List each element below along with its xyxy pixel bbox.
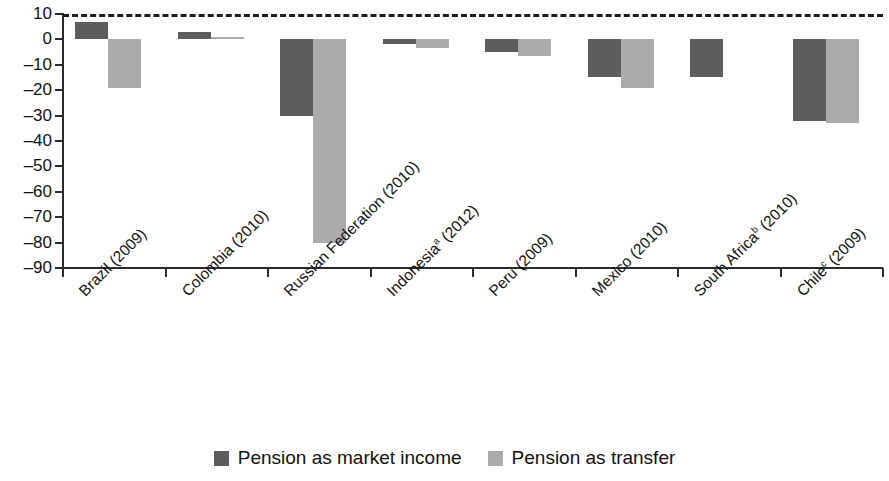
legend-entry: Pension as transfer xyxy=(488,448,676,468)
x-axis-tick xyxy=(165,268,167,277)
x-axis-tick xyxy=(575,268,577,277)
bar xyxy=(621,39,654,87)
legend-swatch-icon xyxy=(488,451,503,466)
bar xyxy=(280,39,313,115)
bar xyxy=(178,32,211,40)
x-axis-tick xyxy=(882,268,884,277)
bar xyxy=(416,39,449,48)
zero-baseline xyxy=(63,14,883,17)
y-axis-tick xyxy=(55,89,63,91)
y-axis-tick-label: –70 xyxy=(4,208,52,225)
bar xyxy=(485,39,518,52)
legend-label: Pension as market income xyxy=(238,448,462,468)
bar-chart: 100–10–20–30–40–50–60–70–80–90 Brazil (2… xyxy=(0,0,889,481)
y-axis-labels: 100–10–20–30–40–50–60–70–80–90 xyxy=(0,0,52,290)
legend-entry: Pension as market income xyxy=(214,448,462,468)
y-axis-tick-label: –80 xyxy=(4,234,52,251)
x-axis-tick xyxy=(677,268,679,277)
y-axis-tick xyxy=(55,115,63,117)
y-axis-tick xyxy=(55,13,63,15)
x-axis-tick xyxy=(267,268,269,277)
legend-swatch-icon xyxy=(214,451,229,466)
y-axis-tick-label: –60 xyxy=(4,183,52,200)
bar xyxy=(211,37,244,40)
bar xyxy=(75,22,108,40)
x-axis-tick xyxy=(370,268,372,277)
chart-legend: Pension as market incomePension as trans… xyxy=(0,448,889,468)
y-axis-tick xyxy=(55,64,63,66)
y-axis-tick xyxy=(55,165,63,167)
x-axis-tick xyxy=(472,268,474,277)
y-axis-tick-label: 0 xyxy=(4,30,52,47)
y-axis-tick-label: –20 xyxy=(4,81,52,98)
bar xyxy=(313,39,346,242)
x-axis-tick xyxy=(62,268,64,277)
y-axis-tick-label: 10 xyxy=(4,5,52,22)
y-axis-tick xyxy=(55,216,63,218)
x-axis-tick xyxy=(780,268,782,277)
y-axis-tick-label: –90 xyxy=(4,259,52,276)
y-axis-tick xyxy=(55,191,63,193)
y-axis-tick xyxy=(55,140,63,142)
legend-label: Pension as transfer xyxy=(512,448,676,468)
y-axis-tick-label: –40 xyxy=(4,132,52,149)
y-axis-tick xyxy=(55,242,63,244)
y-axis-tick xyxy=(55,38,63,40)
y-axis-tick-label: –30 xyxy=(4,107,52,124)
bar xyxy=(108,39,141,87)
bar xyxy=(793,39,826,120)
bar xyxy=(518,39,551,56)
bar xyxy=(383,39,416,44)
bar xyxy=(690,39,723,77)
bar xyxy=(826,39,859,123)
y-axis-tick-label: –50 xyxy=(4,157,52,174)
bar xyxy=(588,39,621,77)
y-axis-tick-label: –10 xyxy=(4,56,52,73)
